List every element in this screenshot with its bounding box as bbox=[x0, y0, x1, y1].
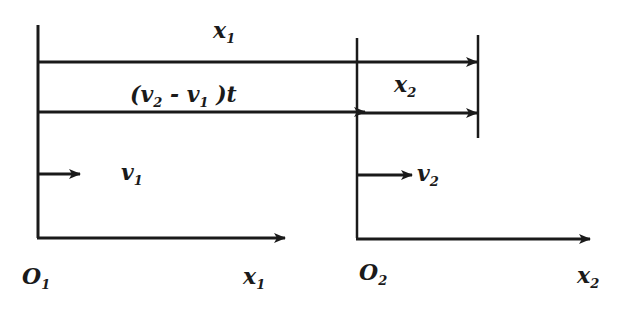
label-x1-top: x1 bbox=[212, 17, 235, 46]
frames-diagram: x1 (v2 - v1 )t x2 v1 v2 O1 O2 x1 x2 bbox=[0, 0, 621, 321]
label-origin-o2: O2 bbox=[359, 259, 387, 288]
label-axis-x1: x1 bbox=[242, 263, 265, 292]
label-axis-x2: x2 bbox=[576, 262, 599, 291]
label-v1: v1 bbox=[121, 159, 143, 188]
label-origin-o1: O1 bbox=[22, 263, 50, 292]
label-x2-mid: x2 bbox=[393, 71, 416, 100]
label-v2: v2 bbox=[417, 160, 439, 189]
label-relative-displacement: (v2 - v1 )t bbox=[130, 81, 237, 110]
